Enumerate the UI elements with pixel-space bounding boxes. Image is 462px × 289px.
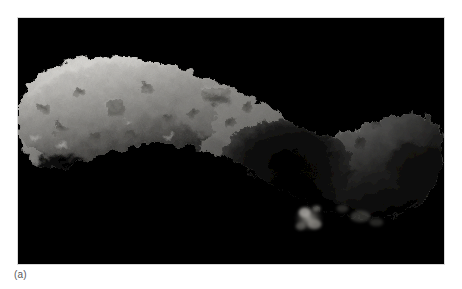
subfigure-caption-label: (a) — [14, 269, 27, 281]
figure-root: (a) — [0, 0, 462, 289]
detached-lit-knob — [294, 205, 324, 231]
asteroid-photo-image — [18, 18, 444, 264]
asteroid-photo-frame — [17, 17, 445, 265]
